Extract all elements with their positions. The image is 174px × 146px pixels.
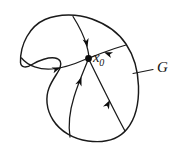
- equilibrium-point-label: x0: [93, 50, 104, 68]
- equilibrium-label-subscript: 0: [99, 57, 104, 68]
- trajectory-from-left: [22, 58, 86, 69]
- phase-portrait-figure: x0 G: [0, 0, 174, 146]
- arrowhead-from-bottom-left: [75, 76, 84, 87]
- region-label-G: G: [157, 60, 168, 75]
- equilibrium-point-dot: [85, 55, 92, 62]
- trajectory-from-bottom-left: [69, 60, 88, 137]
- diagram-canvas: [0, 0, 174, 146]
- trajectory-from-top: [73, 17, 89, 59]
- trajectory-from-bottom-right: [89, 60, 125, 132]
